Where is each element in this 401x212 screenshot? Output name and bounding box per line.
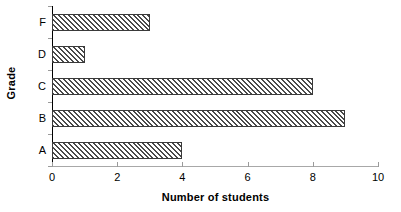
x-tick-label-6: 6: [245, 171, 251, 184]
y-tick-label-a: A: [24, 145, 46, 156]
y-tick-mark: [48, 70, 52, 71]
x-tick-label-2: 2: [114, 171, 120, 184]
y-tick-mark: [48, 6, 52, 7]
bar-a: [52, 142, 182, 159]
y-tick-label-c: C: [24, 81, 46, 92]
y-axis-tick-labels: FDCBA: [24, 0, 46, 166]
x-tick-mark: [248, 162, 249, 167]
y-axis-title: Grade: [0, 0, 22, 166]
x-tick-mark: [117, 162, 118, 167]
x-axis-tick-labels: 0246810: [0, 171, 401, 187]
x-axis-title: Number of students: [52, 191, 379, 203]
x-tick-label-0: 0: [49, 171, 55, 184]
y-tick-label-b: B: [24, 113, 46, 124]
y-tick-label-d: D: [24, 49, 46, 60]
x-tick-mark: [182, 162, 183, 167]
y-tick-mark: [48, 102, 52, 103]
x-tick-mark: [378, 162, 379, 167]
bar-c: [52, 78, 313, 95]
y-tick-mark: [48, 134, 52, 135]
plot-area: [52, 6, 378, 166]
x-axis-line: [52, 166, 379, 167]
x-tick-label-8: 8: [310, 171, 316, 184]
bar-d: [52, 46, 85, 63]
bar-f: [52, 14, 150, 31]
y-axis-title-text: Grade: [5, 67, 17, 100]
x-tick-mark: [313, 162, 314, 167]
x-tick-label-4: 4: [179, 171, 185, 184]
bar-b: [52, 110, 345, 127]
y-tick-label-f: F: [24, 17, 46, 28]
y-tick-mark: [48, 38, 52, 39]
x-tick-mark: [52, 162, 53, 167]
bar-chart: Grade FDCBA 0246810 Number of students: [0, 0, 401, 212]
x-tick-label-10: 10: [372, 171, 384, 184]
